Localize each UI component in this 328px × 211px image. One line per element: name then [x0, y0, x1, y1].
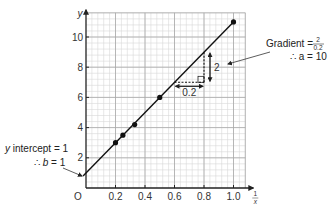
y-tick-label: 10	[72, 32, 84, 43]
gradient-fraction-numerator: 2	[316, 36, 320, 43]
annotations: Gradient = 2 0.2 ∴ a = 10 y intercept = …	[4, 36, 327, 176]
rise-label: 2	[214, 62, 220, 73]
x-tick-label: 0.2	[109, 191, 123, 202]
data-point	[113, 140, 118, 145]
data-point	[231, 19, 236, 24]
b-value-label: ∴ b = 1	[34, 157, 66, 168]
y-tick-label: 2	[77, 152, 83, 163]
minor-grid	[86, 13, 245, 188]
data-point	[120, 133, 125, 138]
data-point	[132, 122, 137, 127]
x-tick-label: 0.4	[138, 191, 152, 202]
y-tick-label: 4	[77, 122, 83, 133]
x-axis-label-numerator: 1	[253, 190, 257, 197]
x-tick-label: 0.8	[197, 191, 211, 202]
a-value-label: ∴ a = 10	[290, 51, 327, 62]
intercept-pointer-arrow	[63, 168, 82, 176]
gradient-fraction-denominator: 0.2	[313, 44, 322, 51]
axes	[86, 10, 253, 188]
data-point	[157, 95, 162, 100]
y-axis-label: y	[77, 8, 84, 19]
x-tick-label: 0.6	[168, 191, 182, 202]
intercept-label: y intercept = 1	[4, 143, 69, 154]
chart: 0.20.40.60.81.0246810Oy1x 0.22 Gradient …	[0, 0, 328, 211]
gradient-pointer-arrow	[228, 52, 270, 64]
origin-label: O	[74, 191, 82, 202]
run-label: 0.2	[182, 87, 196, 98]
gradient-label: Gradient =	[266, 38, 313, 49]
x-tick-label: 1.0	[227, 191, 241, 202]
tick-labels: 0.20.40.60.81.0246810Oy1x	[72, 8, 258, 205]
y-tick-label: 6	[77, 92, 83, 103]
x-axis-label-denominator: x	[253, 198, 258, 205]
y-tick-label: 8	[77, 62, 83, 73]
